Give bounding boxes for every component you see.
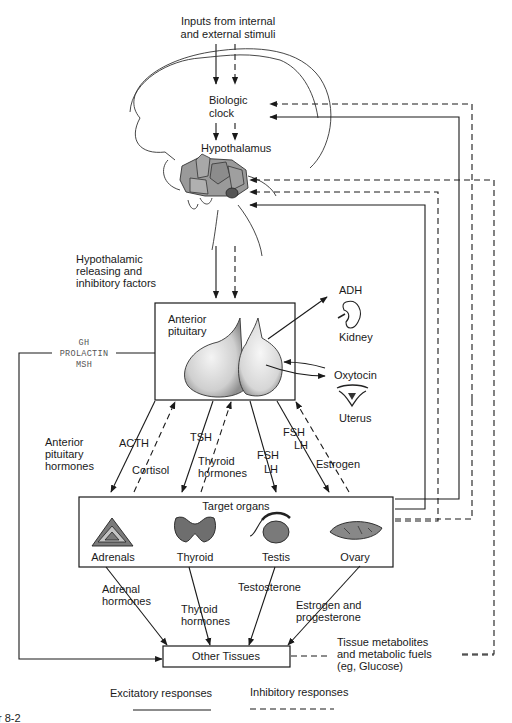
svg-text:hormones: hormones	[198, 467, 247, 479]
svg-text:Adrenal: Adrenal	[102, 583, 140, 595]
testosterone-arrow	[249, 567, 275, 645]
kidney-label: Kidney	[339, 331, 373, 343]
svg-text:GH: GH	[79, 338, 90, 348]
svg-text:Thyroid: Thyroid	[198, 455, 235, 467]
svg-text:releasing and: releasing and	[76, 265, 142, 277]
legend-excitatory-label: Excitatory responses	[110, 687, 213, 699]
svg-text:progesterone: progesterone	[296, 611, 361, 623]
metabolites-label: Tissue metabolites and metabolic fuels (…	[337, 636, 432, 672]
target-organs-label: Target organs	[202, 500, 270, 512]
testosterone-label: Testosterone	[238, 581, 301, 593]
svg-text:Thyroid: Thyroid	[181, 603, 218, 615]
biologic-clock-label: Biologic clock	[209, 94, 248, 119]
svg-text:clock: clock	[209, 107, 235, 119]
svg-text:inhibitory factors: inhibitory factors	[76, 277, 157, 289]
svg-text:and metabolic fuels: and metabolic fuels	[337, 648, 432, 660]
other-tissues-label: Other Tissues	[192, 650, 260, 662]
hypothalamus-label: Hypothalamus	[201, 142, 272, 154]
anterior-pituitary-label: Anterior pituitary	[168, 313, 207, 337]
oxytocin-label: Oxytocin	[334, 369, 377, 381]
svg-text:Anterior: Anterior	[168, 313, 207, 325]
uterus-label: Uterus	[339, 412, 372, 424]
thyroid-label: Thyroid	[177, 551, 214, 563]
svg-text:Inputs from internal: Inputs from internal	[181, 15, 275, 27]
ovary-label: Ovary	[340, 551, 370, 563]
estrogen-label: Estrogen	[316, 458, 360, 470]
legend-inhibitory-label: Inhibitory responses	[250, 686, 349, 698]
anterior-pituitary-hormones-label: Anterior pituitary hormones	[45, 436, 94, 472]
fsh-lh-mid-label: FSH LH	[257, 449, 279, 475]
hypothalamus-illustration	[180, 154, 248, 209]
acth-label: ACTH	[119, 437, 149, 449]
svg-text:hormones: hormones	[181, 615, 230, 627]
cortisol-label: Cortisol	[132, 464, 169, 476]
uterus-icon	[337, 385, 368, 406]
thyroid-hormones-label: Thyroid hormones	[181, 603, 230, 627]
adh-label: ADH	[339, 284, 362, 296]
tsh-label: TSH	[190, 431, 212, 443]
feedback-inhibitory-to-hypothalamus	[395, 400, 472, 519]
gh-prolactin-msh-label: GH PROLACTIN MSH	[60, 338, 109, 370]
svg-text:FSH: FSH	[257, 449, 279, 461]
svg-text:Estrogen and: Estrogen and	[296, 599, 361, 611]
adrenal-hormones-label: Adrenal hormones	[102, 583, 151, 607]
testis-label: Testis	[262, 551, 291, 563]
svg-text:Biologic: Biologic	[209, 94, 248, 106]
svg-text:hormones: hormones	[102, 595, 151, 607]
inputs-label: Inputs from internal and external stimul…	[181, 15, 276, 40]
svg-text:Tissue metabolites: Tissue metabolites	[337, 636, 429, 648]
svg-text:Anterior: Anterior	[45, 436, 84, 448]
svg-text:pituitary: pituitary	[45, 448, 84, 460]
diagram-canvas: Inputs from internal and external stimul…	[0, 0, 512, 723]
svg-text:PROLACTIN: PROLACTIN	[60, 349, 109, 359]
svg-text:FSH: FSH	[283, 426, 305, 438]
svg-text:LH: LH	[264, 463, 278, 475]
legend: Excitatory responses Inhibitory response…	[110, 686, 349, 710]
svg-text:pituitary: pituitary	[168, 325, 207, 337]
svg-text:Hypothalamic: Hypothalamic	[76, 253, 143, 265]
thyroid-hormones-feedback-label: Thyroid hormones	[198, 455, 247, 479]
svg-text:and external stimuli: and external stimuli	[181, 28, 276, 40]
svg-text:MSH: MSH	[76, 360, 92, 370]
fsh-lh-right-label: FSH LH	[283, 426, 308, 451]
svg-text:hormones: hormones	[45, 460, 94, 472]
adrenals-label: Adrenals	[91, 551, 135, 563]
estrogen-progesterone-label: Estrogen and progesterone	[296, 599, 361, 623]
kidney-icon	[338, 301, 360, 328]
figure-caption-fragment: r 8-2	[0, 712, 21, 723]
fsh-lh-testis-arrow	[250, 401, 276, 492]
feedback-inhibitory-to-clock	[270, 104, 472, 400]
releasing-factors-label: Hypothalamic releasing and inhibitory fa…	[76, 253, 157, 289]
svg-text:(eg, Glucose): (eg, Glucose)	[337, 660, 403, 672]
svg-text:LH: LH	[294, 439, 308, 451]
